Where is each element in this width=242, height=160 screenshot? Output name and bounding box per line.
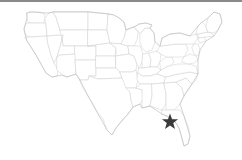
state-new-jersey xyxy=(192,44,200,56)
state-kansas xyxy=(96,56,116,68)
state-missouri xyxy=(116,54,137,72)
state-colorado xyxy=(75,46,96,60)
state-alabama xyxy=(150,83,166,110)
state-vermont xyxy=(196,22,208,34)
us-states-map xyxy=(0,0,242,160)
state-oregon xyxy=(24,23,47,37)
state-north-dakota xyxy=(88,12,108,30)
map-figure xyxy=(0,0,242,160)
state-wyoming xyxy=(60,30,88,46)
state-ohio xyxy=(149,51,161,67)
state-arizona xyxy=(57,54,76,77)
state-shapes-group xyxy=(24,11,222,146)
state-maine xyxy=(206,12,222,33)
state-new-york xyxy=(160,33,198,46)
